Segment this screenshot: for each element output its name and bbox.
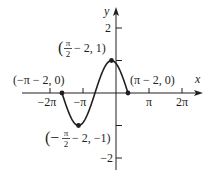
y-tick-label-2: 2: [105, 21, 111, 35]
label-max-point: ( π 2 − 2, 1): [58, 38, 106, 59]
svg-text:− 2, −1): − 2, −1): [72, 131, 111, 145]
key-point: [60, 91, 65, 96]
x-axis-label: x: [194, 72, 201, 86]
x-tick-label-negpi: −π: [74, 95, 87, 109]
x-tick-label-neg2pi: −2π: [38, 95, 57, 109]
svg-text:− 2, 1): − 2, 1): [74, 41, 106, 55]
svg-text:π: π: [64, 128, 69, 138]
key-point: [126, 91, 131, 96]
svg-text:2: 2: [66, 49, 71, 59]
x-tick-label-2pi: 2π: [176, 95, 188, 109]
label-min-point: (− π 2 − 2, −1): [45, 128, 111, 149]
sine-graph: x y −2π −π π 2π 2 −2 (−π − 2, 0) (π − 2,…: [0, 0, 211, 177]
y-axis-label: y: [103, 4, 110, 18]
svg-text:π: π: [66, 38, 71, 48]
svg-text:2: 2: [64, 139, 69, 149]
label-right-zero: (π − 2, 0): [130, 73, 175, 87]
label-left-zero: (−π − 2, 0): [13, 73, 65, 87]
x-tick-label-pi: π: [146, 95, 152, 109]
y-tick-label-neg2: −2: [100, 151, 113, 165]
svg-text:(: (: [58, 39, 63, 57]
key-point: [109, 58, 114, 63]
svg-text:(−: (−: [45, 129, 59, 147]
key-point: [76, 123, 81, 128]
